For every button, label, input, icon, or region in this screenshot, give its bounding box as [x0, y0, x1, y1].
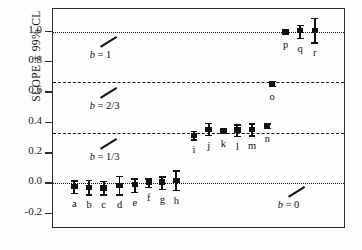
point-marker: [234, 127, 240, 132]
error-bar-cap-lower: [159, 189, 166, 191]
error-bar-cap-lower: [234, 136, 241, 138]
point-label: q: [293, 43, 307, 54]
error-bar-cap-lower: [86, 194, 93, 196]
y-tick-mark: [45, 61, 52, 62]
leader-line: [100, 46, 117, 55]
point-label: k: [216, 138, 230, 149]
error-bar-cap-upper: [205, 123, 212, 125]
error-bar-cap-upper: [173, 170, 180, 172]
reference-line: [53, 82, 344, 83]
point-label: j: [202, 140, 216, 151]
point-label: g: [155, 194, 169, 205]
y-tick-label: 0.6: [28, 83, 42, 95]
y-tick: 1.0: [0, 31, 52, 32]
y-tick-label: 0.4: [28, 114, 42, 126]
error-bar-cap-lower: [297, 38, 304, 40]
point-label: r: [308, 47, 322, 58]
point-marker: [86, 185, 92, 190]
y-tick: 0.6: [0, 91, 52, 92]
point-label: b: [82, 199, 96, 210]
reference-line: [53, 183, 344, 184]
y-tick-label: -0.2: [25, 205, 42, 217]
point-label: p: [279, 39, 293, 50]
error-bar-cap-upper: [311, 18, 318, 20]
point-marker: [220, 128, 226, 133]
point-label: o: [265, 91, 279, 102]
point-label: n: [260, 133, 274, 144]
leader-line: [288, 196, 305, 205]
point-marker: [100, 185, 106, 190]
point-marker: [249, 127, 255, 132]
chart-root: SLOPE ± 99% CL -0.20.00.20.40.60.81.0 b …: [0, 0, 362, 250]
error-bar-cap-upper: [86, 180, 93, 182]
error-bar-cap-upper: [234, 124, 241, 126]
reference-line: [53, 133, 344, 134]
error-bar-cap-lower: [173, 190, 180, 192]
y-tick-label: 0.2: [28, 144, 42, 156]
y-tick-label: 0.0: [28, 174, 42, 186]
point-label: d: [113, 199, 127, 210]
point-label: f: [142, 192, 156, 203]
y-tick-mark: [45, 182, 52, 183]
y-tick: 0.2: [0, 152, 52, 153]
point-marker: [191, 133, 197, 138]
y-tick-mark: [45, 213, 52, 214]
y-tick-label: 1.0: [28, 23, 42, 35]
error-bar-cap-lower: [191, 139, 198, 141]
y-tick-mark: [45, 122, 52, 123]
y-tick-mark: [45, 91, 52, 92]
point-label: e: [128, 197, 142, 208]
error-bar-cap-lower: [269, 86, 276, 88]
error-bar-cap-lower: [249, 135, 256, 137]
y-tick: 0.4: [0, 122, 52, 123]
point-label: l: [230, 141, 244, 152]
point-marker: [297, 28, 303, 33]
error-bar-cap-upper: [249, 123, 256, 125]
point-marker: [71, 184, 77, 189]
error-bar-cap-upper: [131, 178, 138, 180]
y-tick-mark: [45, 31, 52, 32]
error-bar-cap-upper: [159, 176, 166, 178]
point-marker: [173, 178, 179, 183]
error-bar-cap-upper: [100, 181, 107, 183]
error-bar-cap-lower: [116, 194, 123, 196]
error-bar-cap-lower: [145, 187, 152, 189]
y-tick: 0.8: [0, 61, 52, 62]
error-bar-cap-lower: [220, 133, 227, 135]
point-marker: [282, 29, 288, 34]
error-bar-cap-upper: [297, 25, 304, 27]
y-tick: -0.2: [0, 213, 52, 214]
point-marker: [146, 180, 152, 185]
point-marker: [132, 182, 138, 187]
point-marker: [312, 28, 318, 33]
error-bar-cap-upper: [116, 176, 123, 178]
y-tick: 0.0: [0, 182, 52, 183]
point-label: m: [245, 140, 259, 151]
point-label: a: [67, 198, 81, 209]
error-bar-cap-upper: [71, 180, 78, 182]
point-marker: [116, 183, 122, 188]
point-marker: [159, 179, 165, 184]
point-marker: [264, 123, 270, 128]
point-label: i: [187, 144, 201, 155]
leader-line: [100, 97, 117, 106]
point-marker: [269, 81, 275, 86]
error-bar-cap-lower: [205, 135, 212, 137]
point-marker: [205, 127, 211, 132]
error-bar-cap-lower: [311, 42, 318, 44]
error-bar-cap-lower: [71, 193, 78, 195]
point-label: h: [169, 195, 183, 206]
y-tick-mark: [45, 152, 52, 153]
plot-frame: b = 1b = 2/3b = 1/3b = 0 abcdefghijklmno…: [52, 8, 345, 228]
leader-line: [100, 148, 117, 157]
point-label: c: [97, 199, 111, 210]
error-bar-cap-lower: [100, 194, 107, 196]
error-bar-cap-lower: [131, 192, 138, 194]
y-tick-label: 0.8: [28, 53, 42, 65]
